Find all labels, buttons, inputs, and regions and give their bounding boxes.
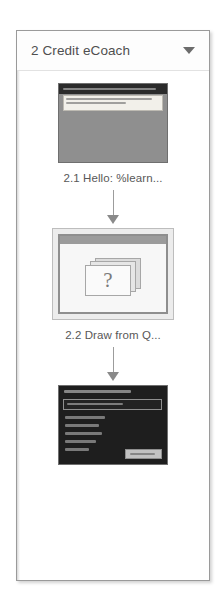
slide-node-3[interactable] — [58, 385, 168, 474]
question-bank-cards: ? — [85, 258, 141, 296]
placeholder-text-line — [64, 390, 131, 393]
placeholder-text-line — [130, 453, 155, 455]
arrow-head — [107, 215, 119, 224]
slide-3-submit-button — [125, 449, 162, 459]
scene-title: 2 Credit eCoach — [31, 43, 183, 58]
placeholder-text-line — [67, 403, 123, 405]
placeholder-text-line — [65, 432, 102, 435]
scene-dropdown[interactable]: 2 Credit eCoach — [17, 31, 209, 71]
slide-node-1[interactable]: 2.1 Hello: %learn... — [58, 83, 168, 184]
placeholder-text-line — [63, 88, 156, 90]
slide-node-2[interactable]: ? 2.2 Draw from Q... — [52, 228, 174, 341]
storyboard-list: 2.1 Hello: %learn... ? — [17, 71, 209, 474]
placeholder-text-line — [66, 102, 126, 104]
arrow-down-icon — [106, 347, 120, 381]
card-front: ? — [85, 265, 131, 296]
question-mark-icon: ? — [103, 270, 112, 291]
placeholder-text-line — [65, 448, 89, 451]
slide-thumbnail-2[interactable]: ? — [58, 234, 168, 314]
arrow-stem — [113, 347, 114, 372]
arrow-head — [107, 372, 119, 381]
arrow-down-icon — [106, 190, 120, 224]
slide-caption-2: 2.2 Draw from Q... — [65, 329, 161, 341]
slide-1-body — [59, 84, 167, 162]
slide-3-question-box — [63, 399, 162, 410]
slide-navigator-panel: 2 Credit eCoach 2 — [16, 30, 210, 581]
placeholder-text-line — [66, 98, 152, 100]
slide-3-title — [64, 390, 159, 394]
arrow-stem — [113, 190, 114, 215]
slide-1-titlebar — [59, 84, 167, 94]
slide-thumbnail-1[interactable] — [58, 83, 168, 163]
slide-2-titlebar — [60, 236, 166, 244]
slide-thumbnail-frame-1[interactable] — [58, 83, 168, 163]
slide-thumbnail-frame-3[interactable] — [58, 385, 168, 465]
slide-2-body: ? — [60, 236, 166, 312]
slide-1-textbox — [63, 95, 163, 111]
chevron-down-icon[interactable] — [183, 47, 195, 54]
slide-thumbnail-frame-2[interactable]: ? — [52, 228, 174, 320]
slide-3-body — [59, 386, 167, 464]
placeholder-text-line — [65, 424, 99, 427]
slide-thumbnail-3[interactable] — [58, 385, 168, 465]
slide-caption-1: 2.1 Hello: %learn... — [63, 172, 162, 184]
placeholder-text-line — [65, 416, 105, 419]
placeholder-text-line — [65, 440, 96, 443]
slide-3-answer-list — [65, 416, 105, 456]
